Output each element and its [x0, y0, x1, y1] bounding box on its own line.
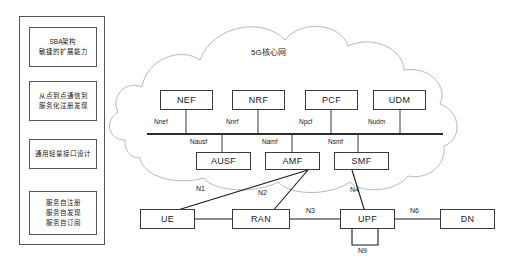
interface-label-npcf: Npcf	[299, 118, 312, 125]
reference-point-n1: N1	[196, 185, 205, 192]
reference-point-n3: N3	[306, 207, 315, 214]
node-box-ran[interactable]: RAN	[232, 209, 290, 229]
link-n1	[168, 170, 308, 213]
node-label-ue: UE	[161, 214, 174, 224]
nf-label-udm: UDM	[389, 95, 410, 105]
interface-label-nnef: Nnef	[154, 118, 168, 125]
reference-point-n9: N9	[358, 247, 367, 254]
nf-box-ausf[interactable]: AUSF	[196, 152, 251, 170]
nf-box-nrf[interactable]: NRF	[232, 90, 285, 110]
interface-label-namf: Namf	[262, 138, 278, 145]
nf-label-ausf: AUSF	[211, 156, 236, 166]
interface-label-nsmf: Nsmf	[328, 138, 343, 145]
node-box-dn[interactable]: DN	[440, 209, 495, 229]
nf-box-udm[interactable]: UDM	[373, 90, 426, 110]
nf-box-amf[interactable]: AMF	[265, 152, 320, 170]
diagram-canvas: SBA架构 敏捷的扩展能力 从点到点通信到 服务化注册发现 通用轻量接口设计 服…	[0, 0, 508, 270]
node-label-upf: UPF	[358, 214, 377, 224]
nf-box-pcf[interactable]: PCF	[305, 90, 358, 110]
nf-label-smf: SMF	[352, 156, 372, 166]
reference-point-n2: N2	[258, 189, 267, 196]
interface-label-nudm: Nudm	[368, 118, 385, 125]
interface-label-nausf: Nausf	[190, 138, 207, 145]
nf-label-nrf: NRF	[249, 95, 268, 105]
reference-point-n4: N4	[350, 186, 359, 193]
nf-box-nef[interactable]: NEF	[160, 90, 213, 110]
nf-box-smf[interactable]: SMF	[334, 152, 389, 170]
node-box-upf[interactable]: UPF	[340, 209, 395, 229]
connector-layer	[0, 0, 508, 270]
node-box-ue[interactable]: UE	[140, 209, 195, 229]
nf-label-pcf: PCF	[322, 95, 341, 105]
link-n2	[271, 170, 308, 213]
interface-label-nnrf: Nnrf	[226, 118, 238, 125]
nf-label-nef: NEF	[177, 95, 196, 105]
reference-point-n6: N6	[410, 207, 419, 214]
node-label-ran: RAN	[251, 214, 271, 224]
cloud-title: 5G核心网	[251, 46, 286, 57]
node-label-dn: DN	[461, 214, 475, 224]
nf-label-amf: AMF	[283, 156, 303, 166]
